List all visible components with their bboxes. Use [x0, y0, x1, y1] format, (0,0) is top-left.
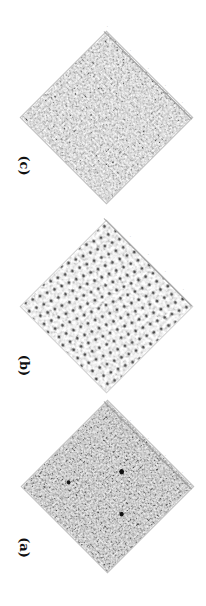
panel-a-tick: · [163, 455, 168, 456]
panel-a-label: (a) [17, 537, 32, 558]
panel-a: · · · · (a) [0, 0, 206, 606]
panel-a-tick: · [146, 438, 151, 439]
panel-a-image [21, 400, 195, 574]
panel-a-tick: · [128, 420, 133, 421]
panel-a-tick: · [180, 472, 185, 473]
